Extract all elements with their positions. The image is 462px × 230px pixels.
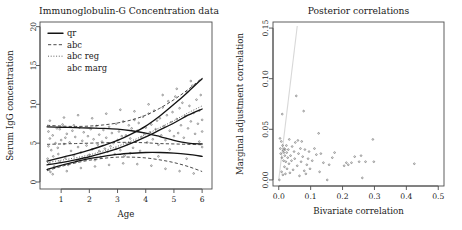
data-point bbox=[297, 140, 299, 142]
data-point bbox=[65, 137, 67, 139]
data-point bbox=[281, 171, 283, 173]
data-point bbox=[346, 162, 348, 164]
figure-container: Immunoglobulin-G Concentration data05101… bbox=[0, 0, 462, 230]
data-point bbox=[105, 113, 107, 115]
data-point bbox=[189, 105, 191, 107]
data-point bbox=[413, 163, 415, 165]
data-point bbox=[60, 139, 62, 141]
data-point bbox=[360, 155, 362, 157]
data-point bbox=[309, 168, 311, 170]
data-point bbox=[158, 156, 160, 158]
data-point bbox=[296, 165, 298, 167]
x-tick-label: 4 bbox=[143, 195, 148, 204]
data-point bbox=[299, 175, 301, 177]
data-point bbox=[287, 149, 289, 151]
data-point bbox=[194, 133, 196, 135]
data-point bbox=[77, 146, 79, 148]
data-point bbox=[131, 128, 133, 130]
x-tick-label: 6 bbox=[200, 195, 205, 204]
data-point bbox=[183, 137, 185, 139]
legend-label-1: abc bbox=[67, 40, 82, 50]
data-point bbox=[57, 153, 59, 155]
series-curve-4 bbox=[47, 78, 202, 127]
data-point bbox=[295, 95, 297, 97]
data-point bbox=[108, 164, 110, 166]
data-point bbox=[59, 128, 61, 130]
data-point bbox=[48, 145, 50, 147]
data-point bbox=[318, 133, 320, 135]
data-point bbox=[294, 158, 296, 160]
data-point bbox=[303, 110, 305, 112]
scatter-points bbox=[279, 95, 416, 181]
data-point bbox=[365, 161, 367, 163]
data-point bbox=[172, 111, 174, 113]
data-point bbox=[105, 137, 107, 139]
posterior-correlations-chart: Posterior correlations0.000.050.100.150.… bbox=[231, 0, 462, 230]
data-point bbox=[300, 161, 302, 163]
data-point bbox=[121, 135, 123, 137]
data-point bbox=[279, 179, 281, 181]
data-point bbox=[80, 167, 82, 169]
data-point bbox=[120, 149, 122, 151]
legend-label-3: abc marg bbox=[67, 63, 108, 73]
data-point bbox=[74, 136, 76, 138]
data-point bbox=[288, 139, 290, 141]
data-point bbox=[93, 138, 95, 140]
data-point bbox=[49, 138, 51, 140]
data-point bbox=[197, 123, 199, 125]
data-point bbox=[158, 144, 160, 146]
y-tick-label: 0.10 bbox=[261, 70, 270, 87]
data-point bbox=[176, 88, 178, 90]
data-point bbox=[49, 120, 51, 122]
x-tick-label: 0.3 bbox=[368, 192, 380, 201]
data-point bbox=[179, 170, 181, 172]
data-point bbox=[331, 157, 333, 159]
data-point bbox=[323, 162, 325, 164]
data-point bbox=[279, 148, 281, 150]
data-point bbox=[177, 132, 179, 134]
data-point bbox=[173, 135, 175, 137]
data-point bbox=[174, 96, 176, 98]
data-point bbox=[280, 153, 282, 155]
data-point bbox=[165, 168, 167, 170]
y-tick-label: 10 bbox=[29, 99, 38, 109]
x-tick-label: 1 bbox=[59, 195, 64, 204]
data-point bbox=[293, 151, 295, 153]
data-point bbox=[302, 156, 304, 158]
data-point bbox=[69, 142, 71, 144]
y-tick-label: 5 bbox=[29, 141, 38, 146]
data-point bbox=[289, 172, 291, 174]
data-point bbox=[304, 149, 306, 151]
data-point bbox=[86, 145, 88, 147]
y-tick-label: 0.05 bbox=[261, 121, 270, 138]
data-point bbox=[286, 168, 288, 170]
data-point bbox=[83, 131, 85, 133]
data-point bbox=[284, 155, 286, 157]
data-point bbox=[280, 141, 282, 143]
data-layer bbox=[279, 26, 416, 181]
data-point bbox=[354, 156, 356, 158]
data-point bbox=[301, 141, 303, 143]
data-point bbox=[283, 160, 285, 162]
series-curve-6 bbox=[47, 157, 202, 171]
data-point bbox=[201, 119, 203, 121]
data-point bbox=[72, 130, 74, 132]
data-point bbox=[328, 164, 330, 166]
data-point bbox=[81, 140, 83, 142]
y-tick-label: 0.15 bbox=[261, 19, 270, 36]
data-point bbox=[282, 150, 284, 152]
data-point bbox=[286, 152, 288, 154]
x-tick-label: 0.2 bbox=[337, 192, 349, 201]
data-point bbox=[162, 94, 164, 96]
data-point bbox=[169, 149, 171, 151]
data-point bbox=[52, 135, 54, 137]
data-point bbox=[122, 163, 124, 165]
data-point bbox=[163, 125, 165, 127]
x-axis-label: Bivariate correlation bbox=[313, 206, 404, 216]
data-point bbox=[52, 156, 54, 158]
data-point bbox=[314, 148, 316, 150]
data-point bbox=[201, 146, 203, 148]
data-point bbox=[134, 110, 136, 112]
data-point bbox=[284, 166, 286, 168]
x-tick-label: 0.5 bbox=[432, 192, 444, 201]
